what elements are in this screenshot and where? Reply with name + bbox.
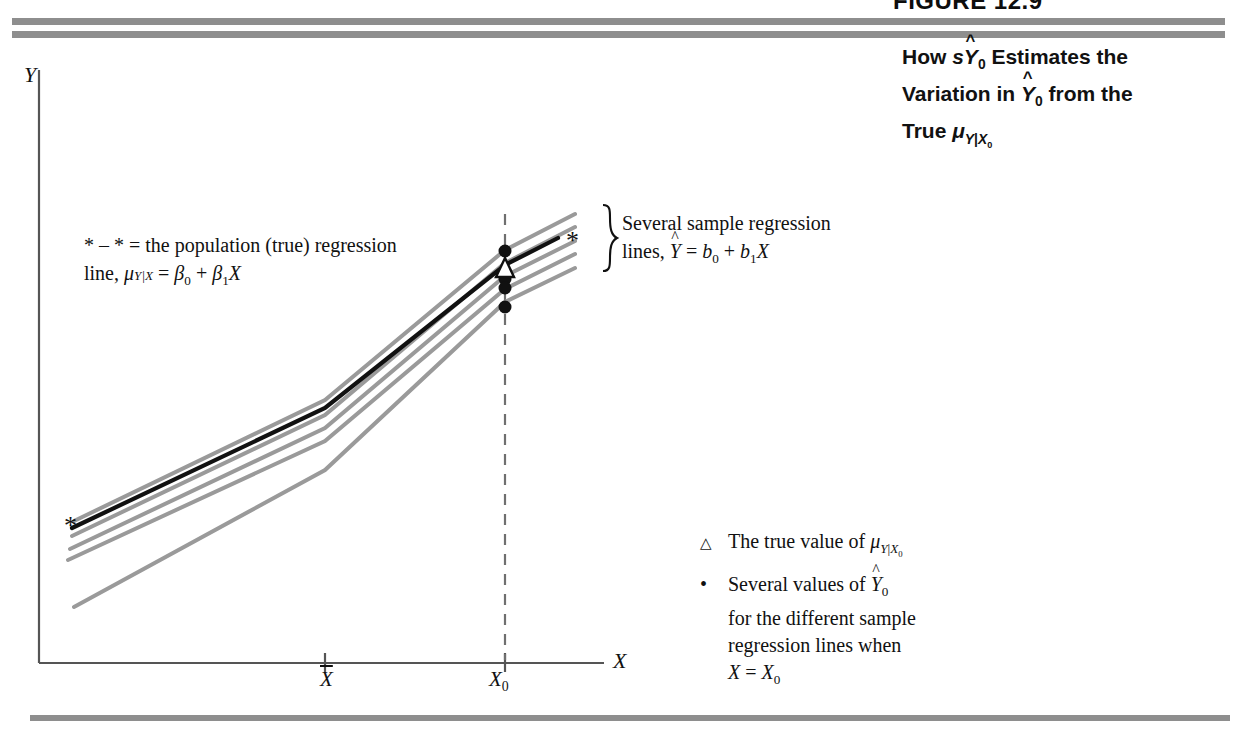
y-hat-dot-5	[499, 301, 512, 314]
sample-estimate-dots	[499, 245, 512, 314]
sample-regression-line-5	[74, 268, 575, 607]
y-axis-label: Y	[24, 62, 36, 88]
annotation-sample-lines-1: Several sample regression	[622, 209, 922, 237]
annotation-population-line-2: line, μY|X = β0 + β1X	[84, 259, 484, 295]
annotation-population-line: * – * = the population (true) regression…	[84, 231, 484, 295]
annotation-population-line-1: * – * = the population (true) regression	[84, 231, 484, 259]
annotation-sample-lines-2-prefix: lines,	[622, 240, 670, 262]
y-hat-dot-4	[499, 282, 512, 295]
asterisk-left-icon: *	[64, 511, 77, 540]
axis-lines	[39, 70, 604, 663]
curly-brace	[603, 205, 617, 271]
x-tick-label-x-zero: X0	[489, 667, 509, 695]
x-tick-label-x-bar: X	[320, 667, 333, 692]
legend-item-true-mean: △ The true value of μY|X0	[700, 528, 1000, 568]
regression-plot: * *	[0, 0, 1236, 736]
triangle-outline-icon: △	[700, 530, 720, 557]
annotation-sample-lines: Several sample regression lines, ^Y = b0…	[622, 209, 922, 273]
legend-item-sample-values-label: Several values of ^Y0for the different s…	[728, 573, 916, 683]
filled-dot-icon: •	[700, 571, 720, 598]
legend-item-true-mean-label: The true value of μY|X0	[728, 530, 903, 552]
annotation-sample-lines-2: lines, ^Y = b0 + b1X	[622, 237, 922, 273]
asterisk-right-icon: *	[566, 226, 579, 255]
x-axis-label: X	[613, 648, 626, 674]
figure-page: FIGURE 12.9 How s^Y0 Estimates the Varia…	[0, 0, 1236, 736]
plot-legend: △ The true value of μY|X0 • Several valu…	[700, 528, 1000, 696]
annotation-population-line-2-prefix: line,	[84, 262, 124, 284]
legend-item-sample-values: • Several values of ^Y0for the different…	[700, 571, 1000, 693]
